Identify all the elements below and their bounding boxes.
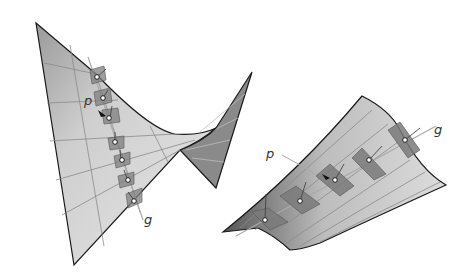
- saddle-back-wing: [180, 72, 252, 188]
- diagram-canvas: p g: [0, 0, 470, 280]
- label-p-left: p: [83, 93, 92, 108]
- label-p-right: p: [265, 146, 274, 161]
- label-g-right: g: [434, 122, 442, 137]
- saddle-front-face: [36, 23, 216, 265]
- label-g-left: g: [144, 212, 152, 227]
- right-ruled-surface: p g: [223, 96, 446, 250]
- left-saddle-surface: p g: [36, 23, 252, 265]
